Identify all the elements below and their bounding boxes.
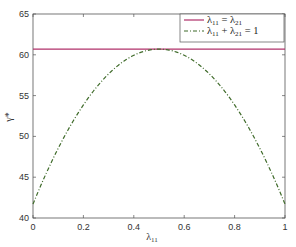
x-tick-label: 1 xyxy=(282,222,287,232)
y-tick-label: 60 xyxy=(19,50,29,60)
x-tick-label: 0.8 xyxy=(228,222,241,232)
y-axis-label: γ* xyxy=(3,112,14,122)
line-chart: 404550556065 00.20.40.60.81 γ* λ11 λ11 =… xyxy=(0,0,296,247)
x-axis-label: λ11 xyxy=(146,231,158,244)
y-tick-label: 65 xyxy=(19,9,29,19)
x-tick-label: 0.4 xyxy=(128,222,141,232)
legend: λ11 = λ21λ11 + λ21 = 1 xyxy=(180,14,284,42)
y-tick-label: 50 xyxy=(19,131,29,141)
plot-area xyxy=(33,14,285,218)
x-tick-label: 0 xyxy=(30,222,35,232)
x-tick-label: 0.2 xyxy=(77,222,90,232)
x-tick-label: 0.6 xyxy=(178,222,191,232)
y-tick-label: 55 xyxy=(19,91,29,101)
y-tick-label: 40 xyxy=(19,213,29,223)
y-tick-label: 45 xyxy=(19,172,29,182)
